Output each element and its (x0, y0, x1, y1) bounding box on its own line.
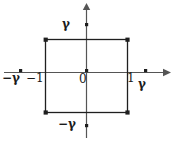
square-corner-bottom-right (125, 110, 129, 114)
y-axis-arrowhead (83, 3, 90, 10)
y-axis-label-negative-gamma: −γ (58, 118, 76, 130)
x-tick-gamma (144, 69, 147, 72)
square-corner-bottom-left (44, 110, 48, 114)
y-tick-gamma (85, 23, 88, 26)
gamma-square-figure: γ −γ −γ −1 0 1 γ (0, 0, 173, 147)
square-corner-top-left (44, 38, 48, 42)
y-axis-label-gamma: γ (62, 18, 70, 30)
x-axis-arrowhead (163, 69, 171, 76)
y-tick-neg-gamma (85, 124, 88, 127)
x-axis-label-negative-gamma: −γ (2, 72, 20, 84)
x-axis-label-negative-one: −1 (26, 72, 44, 84)
square-corner-top-right (125, 38, 129, 42)
x-axis-label-gamma: γ (138, 78, 146, 90)
origin-label: 0 (79, 73, 87, 85)
x-axis-label-one: 1 (127, 72, 135, 84)
